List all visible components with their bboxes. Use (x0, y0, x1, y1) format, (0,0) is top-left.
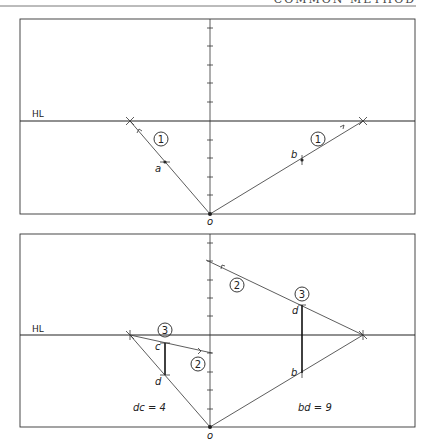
bottom-line-right (210, 335, 363, 427)
line-2-upper (206, 260, 363, 335)
step-2-upper: 2 (234, 280, 240, 291)
label-c: c (155, 341, 161, 352)
bottom-line-left (130, 335, 210, 427)
top-hl-label: HL (32, 109, 44, 119)
bottom-origin-point (208, 425, 212, 429)
label-b-bottom: b (291, 367, 297, 378)
bottom-hl-label: HL (32, 324, 44, 334)
label-d-left: d (155, 376, 162, 387)
label-d-right: d (292, 305, 299, 316)
step-1-left: 1 (158, 134, 164, 145)
step-1-right: 1 (315, 134, 321, 145)
bottom-origin-label: o (207, 430, 213, 441)
bottom-panel: HL c d d b o 2 2 3 3 dc = 4 bd = 9 (20, 234, 415, 441)
top-panel: HL a b o 1 1 (20, 19, 415, 227)
arrow-icon (340, 125, 344, 129)
top-line-right (210, 121, 363, 214)
label-a: a (155, 163, 161, 174)
measure-right-label: bd = 9 (298, 402, 332, 413)
top-line-left (130, 121, 210, 214)
perspective-diagram: HL a b o 1 1 HL (0, 0, 428, 445)
bottom-frame (20, 234, 415, 427)
step-3-left: 3 (162, 325, 168, 336)
step-2-lower: 2 (195, 359, 201, 370)
top-frame (20, 19, 415, 214)
label-b: b (291, 149, 297, 160)
arrow-icon (198, 348, 201, 354)
measure-left-label: dc = 4 (133, 402, 166, 413)
step-3-right: 3 (299, 289, 305, 300)
line-2-lower (130, 335, 212, 353)
top-origin-label: o (207, 216, 213, 227)
